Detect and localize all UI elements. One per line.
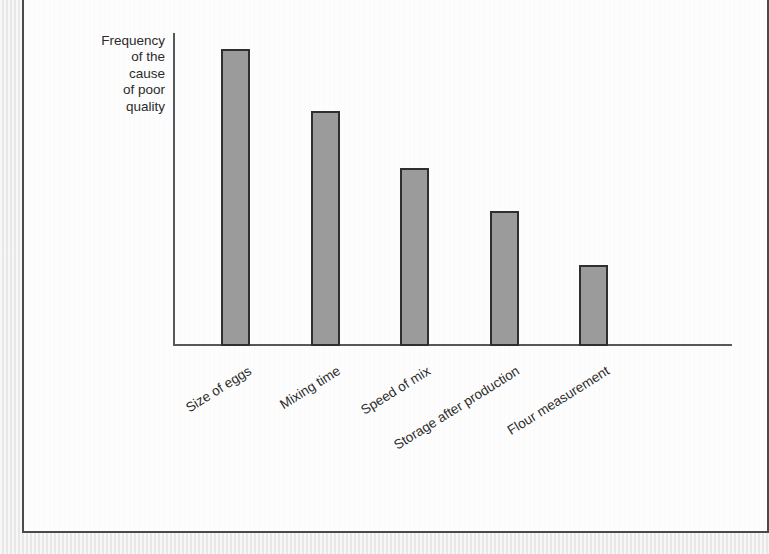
bar-mixing-time	[311, 111, 340, 346]
page-background: Frequency of the cause of poor quality S…	[0, 0, 769, 554]
bar-flour-measurement	[579, 265, 608, 346]
bar-chart: Frequency of the cause of poor quality S…	[0, 0, 769, 554]
y-axis-label: Frequency of the cause of poor quality	[18, 33, 165, 115]
x-axis-line	[173, 344, 732, 346]
bar-storage-after-production	[490, 211, 519, 346]
bar-size-of-eggs	[221, 49, 250, 346]
bar-speed-of-mix	[400, 168, 429, 346]
y-axis-line	[173, 33, 175, 346]
